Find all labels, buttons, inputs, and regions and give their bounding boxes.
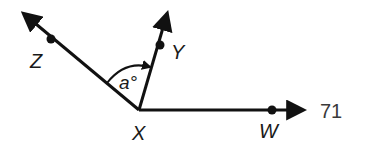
angle-diagram: Z Y X W a° 71: [0, 0, 374, 163]
label-x: X: [131, 122, 146, 144]
problem-number: 71: [320, 100, 342, 122]
label-z: Z: [29, 50, 43, 72]
label-y: Y: [171, 41, 186, 63]
point-w-dot: [268, 106, 277, 115]
label-w: W: [259, 120, 280, 142]
point-z-dot: [47, 35, 56, 44]
angle-label: a°: [119, 72, 138, 93]
ray-xy: [139, 14, 167, 110]
point-y-dot: [156, 41, 165, 50]
